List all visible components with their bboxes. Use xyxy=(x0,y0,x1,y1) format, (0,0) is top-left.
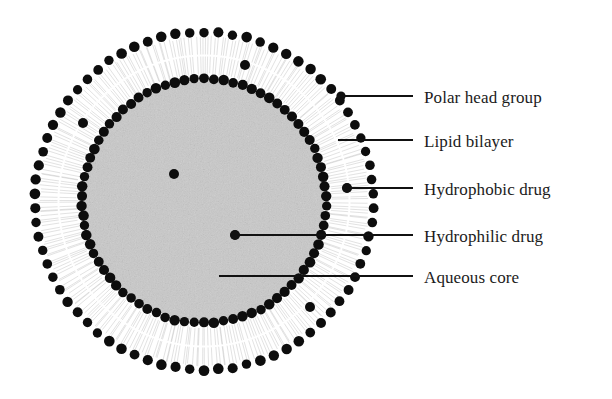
polar-head-dot-inner xyxy=(305,135,315,145)
polar-head-dot-outer xyxy=(55,285,65,295)
polar-head-dot-inner xyxy=(80,221,89,230)
polar-head-dot-outer xyxy=(369,189,378,198)
polar-head-dot-inner xyxy=(219,316,228,325)
polar-head-dot-inner xyxy=(199,73,209,83)
polar-head-dot-outer xyxy=(143,355,153,365)
polar-head-dot-inner xyxy=(80,172,89,181)
polar-head-dot-outer xyxy=(281,49,291,59)
polar-head-dot-inner xyxy=(321,191,331,201)
polar-head-dot-outer xyxy=(350,272,360,282)
polar-head-dot-inner xyxy=(99,265,109,275)
polar-head-dot-outer xyxy=(156,31,167,42)
polar-head-dot-inner xyxy=(81,230,92,241)
polar-head-dot-inner xyxy=(209,75,219,85)
polar-head-dot-inner xyxy=(85,153,95,163)
polar-head-dot-outer xyxy=(335,296,345,306)
polar-head-dot-outer xyxy=(213,27,223,37)
polar-head-dot-outer xyxy=(48,120,58,130)
polar-head-dot-outer xyxy=(38,147,48,157)
polar-head-dot-inner xyxy=(320,181,330,191)
polar-head-dot-outer xyxy=(30,203,40,213)
polar-head-dot-outer xyxy=(255,355,266,366)
polar-head-dot-inner xyxy=(272,99,282,109)
polar-head-dot-inner xyxy=(134,93,144,103)
polar-head-dot-inner xyxy=(312,153,322,163)
polar-head-dot-outer xyxy=(30,174,40,184)
polar-head-dot-outer xyxy=(344,285,354,295)
polar-head-dot-inner xyxy=(151,83,162,94)
polar-head-dot-inner xyxy=(264,299,275,310)
polar-head-dot-inner xyxy=(126,293,135,302)
polar-head-dot-outer xyxy=(42,133,52,143)
polar-head-dot-inner xyxy=(77,191,87,201)
polar-head-dot-outer xyxy=(156,359,167,370)
polar-head-dot-inner xyxy=(209,317,220,328)
polar-head-dot-outer xyxy=(365,160,375,170)
polar-head-dot-outer xyxy=(199,365,210,376)
polar-head-dot-outer xyxy=(269,350,279,360)
polar-head-dot-inner xyxy=(78,210,89,221)
polar-head-dot-inner xyxy=(316,162,326,172)
polar-head-dot-inner xyxy=(247,84,257,94)
polar-head-dot-inner xyxy=(94,257,104,267)
polar-head-dot-outer xyxy=(43,259,53,269)
polar-head-dot-outer xyxy=(326,308,336,318)
callout-anchor-hydrophilic-drug xyxy=(230,230,239,239)
polar-head-dot-outer xyxy=(130,350,140,360)
polar-head-dot-outer xyxy=(31,218,40,227)
callout-label-lipid-bilayer: Lipid bilayer xyxy=(424,133,514,150)
polar-head-dot-outer xyxy=(170,29,180,39)
polar-head-dot-inner xyxy=(319,221,329,231)
polar-head-dot-inner xyxy=(161,81,170,90)
polar-head-dot-outer xyxy=(361,147,370,156)
polar-head-dot-outer xyxy=(185,364,194,373)
polar-head-dot-outer xyxy=(241,32,252,43)
polar-head-dot-outer xyxy=(362,246,371,255)
hydrophilic-drug-dot xyxy=(169,169,179,179)
polar-head-dot-inner xyxy=(118,105,128,115)
polar-head-dot-outer xyxy=(367,218,377,228)
polar-head-dot-outer xyxy=(228,363,238,373)
polar-head-dot-outer xyxy=(350,120,360,130)
polar-head-dot-outer xyxy=(129,41,140,52)
callout-label-aqueous-core: Aqueous core xyxy=(424,269,519,286)
polar-head-dot-inner xyxy=(318,171,329,182)
polar-head-dot-inner xyxy=(94,135,104,145)
polar-head-dot-outer xyxy=(73,307,83,317)
polar-head-dot-inner xyxy=(142,88,151,97)
diagram-canvas xyxy=(0,0,612,399)
polar-head-dot-inner xyxy=(134,299,144,309)
polar-head-dot-inner xyxy=(256,88,266,98)
polar-head-dot-inner xyxy=(321,211,331,221)
polar-head-dot-outer xyxy=(363,231,373,241)
callout-label-polar-head-group: Polar head group xyxy=(424,89,542,106)
polar-head-dot-outer xyxy=(213,363,224,374)
polar-head-dot-inner xyxy=(189,74,198,83)
polar-head-dot-outer xyxy=(83,75,93,85)
polar-head-dot-outer xyxy=(104,56,113,65)
polar-head-dot-outer xyxy=(93,65,103,75)
callout-anchor-polar-head-group xyxy=(336,91,345,100)
callout-anchor-hydrophobic-drug xyxy=(342,183,351,192)
polar-head-dot-inner xyxy=(218,75,229,86)
polar-head-dot-outer xyxy=(305,64,315,74)
polar-head-dot-outer xyxy=(281,344,291,354)
polar-head-dot-outer xyxy=(343,107,353,117)
polar-head-dot-outer xyxy=(93,328,102,337)
hydrophobic-drug-dot xyxy=(240,60,250,70)
polar-head-dot-outer xyxy=(73,85,82,94)
polar-head-dot-inner xyxy=(228,78,238,88)
polar-head-dot-inner xyxy=(89,144,100,155)
polar-head-dot-outer xyxy=(63,95,73,105)
polar-head-dot-outer xyxy=(316,318,326,328)
polar-head-dot-inner xyxy=(169,77,180,88)
polar-head-dot-outer xyxy=(62,297,72,307)
hydrophobic-drug-dot xyxy=(78,118,88,128)
polar-head-dot-inner xyxy=(246,308,256,318)
polar-head-dot-inner xyxy=(142,304,152,314)
polar-head-dot-outer xyxy=(33,232,43,242)
polar-head-dot-outer xyxy=(83,318,92,327)
polar-head-dot-inner xyxy=(180,317,189,326)
polar-head-dot-outer xyxy=(294,336,305,347)
polar-head-dot-outer xyxy=(171,362,181,372)
